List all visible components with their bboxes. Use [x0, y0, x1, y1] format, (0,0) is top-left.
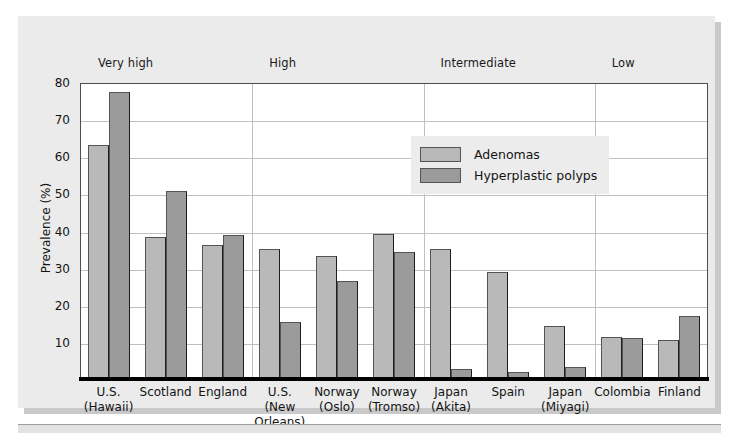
y-tick-label-50: 50 — [55, 187, 70, 201]
x-label-line: (Akita) — [415, 400, 488, 415]
y-tick-label-40: 40 — [55, 225, 70, 239]
plot-gridlines — [81, 84, 707, 379]
group-header-band: Very highHighIntermediateLow — [80, 56, 708, 78]
chart-legend: Adenomas Hyperplastic polyps — [411, 136, 609, 194]
y-tick-label-60: 60 — [55, 150, 70, 164]
y-tick-label-80: 80 — [55, 76, 70, 90]
x-label-line: (Hawaii) — [72, 400, 145, 415]
group-divider-2 — [595, 84, 596, 379]
group-divider-1 — [424, 84, 425, 379]
gridline-50 — [81, 195, 707, 196]
x-axis-label: Finland — [643, 385, 716, 400]
legend-swatch-adenomas — [420, 147, 461, 162]
legend-label-adenomas: Adenomas — [474, 147, 540, 162]
y-axis-title: Prevalence (%) — [39, 153, 53, 303]
x-label-line: (Miyagi) — [529, 400, 602, 415]
x-label-line: Finland — [643, 385, 716, 400]
legend-swatch-hyperplastic-polyps — [420, 168, 461, 183]
legend-item-hyperplastic-polyps: Hyperplastic polyps — [420, 165, 597, 186]
x-axis-baseline — [79, 377, 709, 381]
figure-panel: Very highHighIntermediateLow 10203040506… — [18, 16, 715, 408]
plot-area — [80, 83, 708, 380]
y-tick-label-70: 70 — [55, 113, 70, 127]
legend-label-hyperplastic-polyps: Hyperplastic polyps — [474, 168, 597, 183]
group-header-high: High — [251, 56, 422, 78]
y-tick-label-10: 10 — [55, 336, 70, 350]
gridline-70 — [81, 121, 707, 122]
gridline-20 — [81, 307, 707, 308]
gridline-10 — [81, 344, 707, 345]
group-divider-0 — [252, 84, 253, 379]
group-header-low: Low — [594, 56, 708, 78]
gridline-40 — [81, 233, 707, 234]
y-tick-label-20: 20 — [55, 299, 70, 313]
y-tick-label-30: 30 — [55, 262, 70, 276]
legend-item-adenomas: Adenomas — [420, 144, 597, 165]
gridline-60 — [81, 158, 707, 159]
group-header-very-high: Very high — [80, 56, 251, 78]
bottom-separator-rule — [18, 424, 721, 433]
gridline-30 — [81, 270, 707, 271]
group-header-intermediate: Intermediate — [423, 56, 594, 78]
